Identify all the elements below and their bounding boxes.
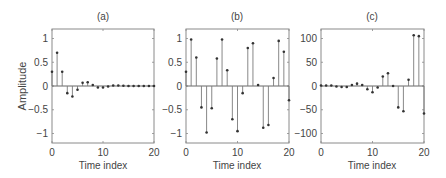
stem-marker [423,112,426,115]
stem-marker [376,86,379,89]
stem-marker [122,84,125,87]
stem-marker [76,89,79,92]
stem-marker [371,91,374,94]
stem-marker [236,130,239,133]
stem-marker [205,131,208,134]
stem-marker [387,72,390,75]
stem-marker [153,85,156,88]
x-axis-label: Time index [213,160,262,171]
stem-marker [392,85,395,88]
panel-c: (c) Time index −100−5005010001020 [294,11,430,171]
stem-marker [320,84,323,87]
stem-marker [345,86,348,89]
y-tick-label: 50 [306,57,318,68]
stem-marker [112,84,115,87]
y-tick-label: 0.5 [168,57,182,68]
x-tick-label: 20 [283,147,295,158]
y-tick-label: 100 [300,33,317,44]
x-tick-label: 0 [49,147,55,158]
stem-marker [97,86,100,89]
stem-marker [382,75,385,78]
stem-marker [137,85,140,88]
stem-marker [247,47,250,50]
panel-title: (c) [366,11,378,22]
stem-marker [216,57,219,60]
y-axis-label: Amplitude [16,62,28,111]
x-tick-label: 10 [232,147,244,158]
stem-marker [51,70,54,73]
stem-marker [412,34,415,37]
stem-marker [148,85,151,88]
y-tick-label: −0.5 [28,104,48,115]
panel-title: (b) [231,11,243,22]
stem-marker [272,77,275,80]
y-tick-label: −100 [294,128,317,139]
stem-marker [92,84,95,87]
x-tick-label: 10 [367,147,379,158]
stem-marker [231,118,234,121]
stem-marker [262,127,265,130]
stem-marker [407,79,410,82]
stem-marker [288,99,291,102]
stem-marker [81,81,84,84]
x-tick-label: 20 [148,147,160,158]
stem-marker [356,82,359,85]
stem-marker [56,51,59,54]
stem-marker [86,81,89,84]
stem-marker [361,84,364,87]
y-tick-label: 0 [176,81,182,92]
stem-marker [190,38,193,41]
stem-marker [71,95,74,98]
stem-marker [283,51,286,54]
panel-title: (a) [97,11,109,22]
stem-marker [267,124,270,127]
stem-marker [61,70,64,73]
y-tick-label: −1 [171,128,183,139]
stem-marker [210,107,213,110]
stem-marker [143,85,146,88]
stem-marker [102,86,105,89]
x-tick-label: 0 [318,147,324,158]
x-tick-label: 10 [97,147,109,158]
stem-marker [402,110,405,113]
stem-marker [241,92,244,95]
stem-marker [66,92,69,95]
panel-b: (b) Time index −1−0.500.5101020 [162,11,295,171]
stem-marker [185,70,188,73]
y-tick-label: 0 [311,81,317,92]
y-tick-label: −1 [37,128,49,139]
y-tick-label: 1 [42,33,48,44]
stem-plots-svg: Amplitude (a) Time index −1−0.500.510102… [0,0,446,178]
stem-marker [195,56,198,59]
stem-marker [221,38,224,41]
stem-marker [226,69,229,72]
x-tick-label: 20 [418,147,430,158]
stem-marker [397,106,400,109]
stem-marker [257,84,260,87]
stem-marker [127,85,130,88]
y-tick-label: 1 [176,33,182,44]
y-tick-label: 0 [42,81,48,92]
stem-marker [200,106,203,109]
y-tick-label: −0.5 [162,104,182,115]
stem-marker [107,85,110,88]
stem-marker [277,40,280,43]
stem-marker [340,86,343,89]
x-tick-label: 0 [183,147,189,158]
stem-marker [366,88,369,91]
y-tick-label: −50 [300,104,317,115]
stem-marker [418,35,421,38]
panel-a: (a) Time index −1−0.500.5101020 [28,11,160,171]
y-tick-label: 0.5 [34,57,48,68]
stem-marker [335,85,338,88]
stem-marker [325,84,328,87]
stem-marker [252,42,255,45]
figure: Amplitude (a) Time index −1−0.500.510102… [0,0,446,178]
stem-marker [330,84,333,87]
x-axis-label: Time index [79,160,128,171]
stem-marker [117,84,120,87]
stem-marker [351,84,354,87]
x-axis-label: Time index [348,160,397,171]
stem-marker [132,85,135,88]
